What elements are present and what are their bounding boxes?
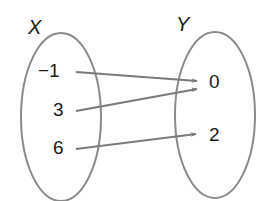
set-y-label: Y [176, 13, 191, 35]
set-y: Y 0 2 [175, 13, 255, 198]
arrow-icon [76, 89, 197, 111]
set-y-element: 2 [209, 124, 220, 145]
set-x-element: −1 [38, 60, 60, 81]
set-y-element: 0 [209, 71, 220, 92]
set-x-element: 3 [53, 99, 64, 120]
mapping-diagram: X −1 3 6 Y 0 2 [0, 0, 264, 201]
set-x-element: 6 [53, 137, 64, 158]
set-y-ellipse [175, 32, 255, 198]
set-x-label: X [27, 16, 42, 38]
